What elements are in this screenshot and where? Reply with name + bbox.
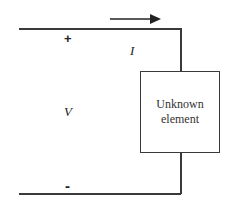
- bottom-wire: [19, 193, 181, 195]
- unknown-element-box: Unknown element: [140, 71, 220, 153]
- negative-terminal-sign: -: [65, 178, 70, 193]
- right-upper-wire: [180, 28, 182, 72]
- current-arrow-icon: [108, 12, 162, 26]
- top-wire: [19, 28, 181, 30]
- right-lower-wire: [180, 152, 182, 194]
- current-symbol: I: [130, 44, 134, 57]
- unknown-element-label: Unknown element: [156, 97, 203, 127]
- element-label-line2: element: [156, 112, 203, 127]
- element-label-line1: Unknown: [156, 97, 203, 112]
- positive-terminal-sign: +: [64, 32, 72, 45]
- voltage-symbol: V: [64, 105, 72, 118]
